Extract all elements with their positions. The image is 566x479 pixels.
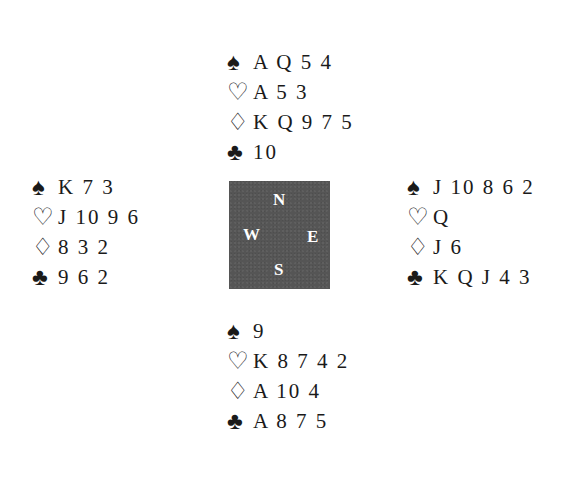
heart-icon: ♡: [407, 202, 433, 232]
west-clubs-cards: 9 6 2: [58, 262, 110, 292]
east-spades: ♠ J 10 8 6 2: [407, 172, 535, 202]
spade-icon: ♠: [227, 47, 253, 77]
diamond-icon: ♢: [32, 232, 58, 262]
east-hearts: ♡ Q: [407, 202, 535, 232]
north-clubs: ♣ 10: [227, 137, 354, 167]
heart-icon: ♡: [227, 77, 253, 107]
north-hand: ♠ A Q 5 4 ♡ A 5 3 ♢ K Q 9 7 5 ♣ 10: [227, 47, 354, 167]
south-spades-cards: 9: [253, 316, 266, 346]
east-hand: ♠ J 10 8 6 2 ♡ Q ♢ J 6 ♣ K Q J 4 3: [407, 172, 535, 292]
diamond-icon: ♢: [227, 376, 253, 406]
east-clubs: ♣ K Q J 4 3: [407, 262, 535, 292]
compass-east-label: E: [307, 228, 318, 245]
spade-icon: ♠: [32, 172, 58, 202]
west-spades-cards: K 7 3: [58, 172, 115, 202]
west-hand: ♠ K 7 3 ♡ J 10 9 6 ♢ 8 3 2 ♣ 9 6 2: [32, 172, 140, 292]
east-hearts-cards: Q: [433, 202, 450, 232]
north-spades: ♠ A Q 5 4: [227, 47, 354, 77]
east-diamonds-cards: J 6: [433, 232, 463, 262]
south-hearts-cards: K 8 7 4 2: [253, 346, 349, 376]
west-spades: ♠ K 7 3: [32, 172, 140, 202]
south-hearts: ♡ K 8 7 4 2: [227, 346, 349, 376]
west-clubs: ♣ 9 6 2: [32, 262, 140, 292]
north-hearts: ♡ A 5 3: [227, 77, 354, 107]
west-hearts: ♡ J 10 9 6: [32, 202, 140, 232]
club-icon: ♣: [32, 262, 58, 292]
west-hearts-cards: J 10 9 6: [58, 202, 140, 232]
north-clubs-cards: 10: [253, 137, 278, 167]
club-icon: ♣: [227, 406, 253, 436]
heart-icon: ♡: [227, 346, 253, 376]
north-spades-cards: A Q 5 4: [253, 47, 333, 77]
south-spades: ♠ 9: [227, 316, 349, 346]
club-icon: ♣: [407, 262, 433, 292]
west-diamonds-cards: 8 3 2: [58, 232, 110, 262]
north-hearts-cards: A 5 3: [253, 77, 309, 107]
east-clubs-cards: K Q J 4 3: [433, 262, 532, 292]
spade-icon: ♠: [227, 316, 253, 346]
compass-north-label: N: [273, 191, 285, 208]
south-hand: ♠ 9 ♡ K 8 7 4 2 ♢ A 10 4 ♣ A 8 7 5: [227, 316, 349, 436]
spade-icon: ♠: [407, 172, 433, 202]
club-icon: ♣: [227, 137, 253, 167]
east-diamonds: ♢ J 6: [407, 232, 535, 262]
south-diamonds-cards: A 10 4: [253, 376, 321, 406]
heart-icon: ♡: [32, 202, 58, 232]
north-diamonds-cards: K Q 9 7 5: [253, 107, 354, 137]
north-diamonds: ♢ K Q 9 7 5: [227, 107, 354, 137]
compass-south-label: S: [274, 261, 283, 278]
south-diamonds: ♢ A 10 4: [227, 376, 349, 406]
diamond-icon: ♢: [407, 232, 433, 262]
south-clubs: ♣ A 8 7 5: [227, 406, 349, 436]
west-diamonds: ♢ 8 3 2: [32, 232, 140, 262]
compass-west-label: W: [243, 226, 260, 243]
south-clubs-cards: A 8 7 5: [253, 406, 328, 436]
east-spades-cards: J 10 8 6 2: [433, 172, 535, 202]
diamond-icon: ♢: [227, 107, 253, 137]
compass-box: N W E S: [229, 181, 330, 289]
